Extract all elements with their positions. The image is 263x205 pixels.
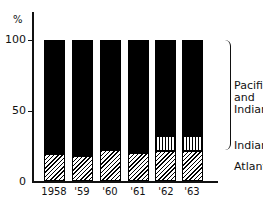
xlabel-59: '59 [68, 186, 96, 197]
tick-100 [28, 40, 33, 41]
tick-50 [28, 111, 33, 112]
y-unit-label: % [13, 14, 23, 25]
legend-brace [224, 40, 231, 150]
segment-atlantic [44, 154, 65, 181]
segment-indian [155, 136, 176, 152]
segment-atlantic [155, 151, 176, 181]
tick-label-50: 50 [2, 104, 26, 117]
bar-1958 [44, 40, 65, 181]
xlabel-1958: 1958 [40, 186, 68, 197]
tick-label-100: 100 [2, 33, 26, 46]
legend-pacific-line3: Indian [234, 104, 263, 116]
bar-59 [72, 40, 93, 181]
legend-indian: Indian [234, 140, 263, 152]
legend-pacific-and-indian: Pacific and Indian [234, 80, 263, 116]
bar-62 [155, 40, 176, 181]
bar-61 [128, 40, 149, 181]
segment-atlantic [182, 151, 203, 181]
x-axis [32, 181, 218, 183]
y-axis [32, 12, 34, 183]
bar-63 [182, 40, 203, 181]
xlabel-63: '63 [178, 186, 206, 197]
segment-atlantic [72, 156, 93, 181]
legend-atlantic: Atlantic [234, 161, 263, 173]
xlabel-62: '62 [152, 186, 180, 197]
segment-atlantic [128, 153, 149, 181]
xlabel-60: '60 [96, 186, 124, 197]
tick-label-0: 0 [2, 175, 26, 188]
segment-atlantic [100, 150, 121, 181]
xlabel-61: '61 [124, 186, 152, 197]
bar-60 [100, 40, 121, 181]
segment-indian [182, 136, 203, 152]
